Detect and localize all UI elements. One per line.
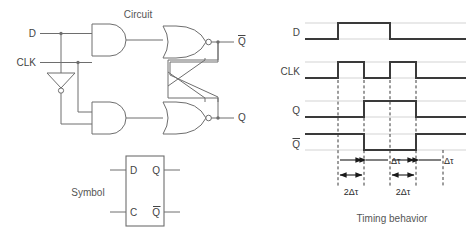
timing-label-clk: CLK [281,66,301,77]
timing-label-d: D [293,27,300,38]
label-two-delta-tau-2: 2Δτ [396,187,411,197]
annotation-row-delta-tau: Δτ Δτ [340,156,454,166]
circuit-output-label-q: Q [238,112,246,123]
circuit-output-qbar: Q [238,36,246,48]
symbol-pin-d: D [130,165,137,176]
circuit-output-label-qbar: Q [238,36,246,47]
label-delta-tau-2: Δτ [444,156,454,166]
logic-diagram-figure: Circuit D CLK [0,0,469,244]
inverter-bubble-icon [58,88,63,93]
timing-guide-lines [305,23,466,150]
waveform-d [305,23,466,39]
symbol-pin-qbar: Q [152,207,160,218]
nor-bottom-bubble-icon [206,115,212,121]
inverter-gate [47,73,75,93]
junction-clk [76,61,79,64]
timing-label-q: Q [292,105,300,116]
and-gate-top [92,24,163,56]
symbol-pin-q: Q [152,165,160,176]
nor-gate-bottom [163,102,234,134]
nor-top-bubble-icon [206,39,212,45]
and-gate-bottom [92,102,163,134]
nor-gate-top [163,26,234,58]
circuit-input-label-d: D [29,28,36,39]
annotation-row-two-delta-tau: 2Δτ 2Δτ [340,175,414,197]
junction-q [216,116,219,119]
symbol-pin-c: C [130,207,137,218]
waveform-qbar [305,134,466,150]
waveform-q [305,101,466,117]
timing-label-qbar: Q [292,139,300,150]
waveform-clk [305,62,466,78]
junction-d [59,32,62,35]
junction-qbar [216,40,219,43]
circuit-input-label-clk: CLK [17,57,37,68]
symbol-block: D Q C Q [110,156,180,226]
label-two-delta-tau-1: 2Δτ [344,187,359,197]
circuit-title: Circuit [124,9,153,20]
figure-root: Circuit D CLK [0,0,469,244]
timing-caption: Timing behavior [357,213,428,224]
timing-label-qbar-group: Q [292,139,300,151]
symbol-caption: Symbol [71,187,104,198]
